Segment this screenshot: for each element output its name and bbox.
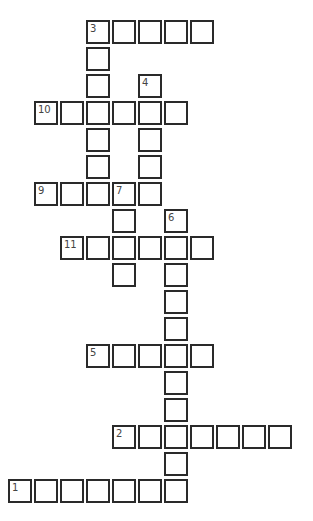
crossword-cell[interactable] xyxy=(86,236,110,260)
crossword-cell[interactable] xyxy=(164,479,188,503)
crossword-cell[interactable] xyxy=(138,236,162,260)
clue-number: 6 xyxy=(168,213,174,223)
crossword-cell[interactable] xyxy=(112,101,136,125)
crossword-cell[interactable] xyxy=(112,344,136,368)
crossword-cell[interactable] xyxy=(60,182,84,206)
clue-number: 11 xyxy=(64,240,77,250)
crossword-cell[interactable] xyxy=(138,101,162,125)
crossword-cell[interactable] xyxy=(216,425,240,449)
crossword-cell[interactable] xyxy=(86,155,110,179)
crossword-cell[interactable] xyxy=(190,344,214,368)
crossword-cell[interactable] xyxy=(164,398,188,422)
crossword-cell[interactable] xyxy=(190,425,214,449)
crossword-cell[interactable] xyxy=(164,344,188,368)
crossword-cell[interactable] xyxy=(138,128,162,152)
crossword-cell[interactable]: 9 xyxy=(34,182,58,206)
crossword-cell[interactable] xyxy=(112,20,136,44)
crossword-cell[interactable] xyxy=(86,479,110,503)
crossword-cell[interactable] xyxy=(138,425,162,449)
crossword-cell[interactable]: 4 xyxy=(138,74,162,98)
crossword-cell[interactable] xyxy=(268,425,292,449)
crossword-cell[interactable] xyxy=(86,101,110,125)
crossword-cell[interactable] xyxy=(242,425,266,449)
crossword-cell[interactable] xyxy=(86,74,110,98)
clue-number: 2 xyxy=(116,429,122,439)
crossword-cell[interactable] xyxy=(164,20,188,44)
crossword-cell[interactable] xyxy=(190,20,214,44)
crossword-cell[interactable]: 7 xyxy=(112,182,136,206)
crossword-cell[interactable] xyxy=(164,425,188,449)
crossword-cell[interactable] xyxy=(164,101,188,125)
crossword-cell[interactable] xyxy=(112,263,136,287)
crossword-cell[interactable]: 11 xyxy=(60,236,84,260)
crossword-cell[interactable] xyxy=(86,128,110,152)
crossword-cell[interactable] xyxy=(190,236,214,260)
clue-number: 1 xyxy=(12,483,18,493)
crossword-cell[interactable] xyxy=(164,290,188,314)
crossword-cell[interactable] xyxy=(164,263,188,287)
crossword-cell[interactable] xyxy=(112,236,136,260)
crossword-cell[interactable] xyxy=(112,479,136,503)
crossword-cell[interactable] xyxy=(164,452,188,476)
clue-number: 5 xyxy=(90,348,96,358)
crossword-cell[interactable] xyxy=(138,20,162,44)
clue-number: 9 xyxy=(38,186,44,196)
crossword-cell[interactable] xyxy=(34,479,58,503)
crossword-cell[interactable] xyxy=(86,47,110,71)
crossword-cell[interactable] xyxy=(138,155,162,179)
crossword-cell[interactable] xyxy=(60,101,84,125)
crossword-cell[interactable] xyxy=(164,317,188,341)
crossword-cell[interactable] xyxy=(138,344,162,368)
crossword-cell[interactable] xyxy=(112,209,136,233)
crossword-cell[interactable]: 5 xyxy=(86,344,110,368)
clue-number: 10 xyxy=(38,105,51,115)
crossword-cell[interactable] xyxy=(164,236,188,260)
crossword-grid: 341097611521 xyxy=(0,0,313,521)
crossword-cell[interactable]: 3 xyxy=(86,20,110,44)
clue-number: 4 xyxy=(142,78,148,88)
crossword-cell[interactable] xyxy=(138,479,162,503)
crossword-cell[interactable]: 10 xyxy=(34,101,58,125)
crossword-cell[interactable] xyxy=(60,479,84,503)
crossword-cell[interactable] xyxy=(164,371,188,395)
clue-number: 3 xyxy=(90,24,96,34)
clue-number: 7 xyxy=(116,186,122,196)
crossword-cell[interactable] xyxy=(138,182,162,206)
crossword-cell[interactable]: 2 xyxy=(112,425,136,449)
crossword-cell[interactable] xyxy=(86,182,110,206)
crossword-cell[interactable]: 1 xyxy=(8,479,32,503)
crossword-cell[interactable]: 6 xyxy=(164,209,188,233)
